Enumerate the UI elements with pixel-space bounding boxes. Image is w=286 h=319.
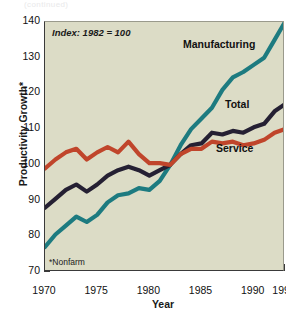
x-tick-label: 1985 <box>181 284 221 296</box>
y-tick-mark <box>44 271 50 272</box>
y-tick-label: 100 <box>0 157 40 169</box>
series-line-manufacturing <box>45 22 284 247</box>
index-base-annotation: Index: 1982 = 100 <box>52 27 130 38</box>
y-tick-label: 80 <box>0 228 40 240</box>
y-tick-label: 130 <box>0 50 40 62</box>
y-axis-title: Productivity Growth* <box>17 59 29 209</box>
y-tick-label: 120 <box>0 85 40 97</box>
chart-figure: (continued) Productivity Growth* Year 70… <box>0 0 286 319</box>
x-tick-label: 1975 <box>76 284 116 296</box>
x-axis-title: Year <box>40 298 286 310</box>
x-tick-label: 1993 <box>264 284 286 296</box>
y-tick-label: 90 <box>0 193 40 205</box>
clipped-top-text: (continued) <box>24 0 144 9</box>
series-label-service: Service <box>216 142 253 154</box>
series-label-total: Total <box>225 98 249 110</box>
series-label-manufacturing: Manufacturing <box>183 38 255 50</box>
y-tick-label: 110 <box>0 121 40 133</box>
y-tick-label: 140 <box>0 14 40 26</box>
x-tick-minor <box>284 264 285 271</box>
x-tick-label: 1980 <box>128 284 168 296</box>
nonfarm-footnote: *Nonfarm <box>49 257 85 267</box>
y-tick-label: 70 <box>0 264 40 276</box>
x-tick-label: 1970 <box>24 284 64 296</box>
